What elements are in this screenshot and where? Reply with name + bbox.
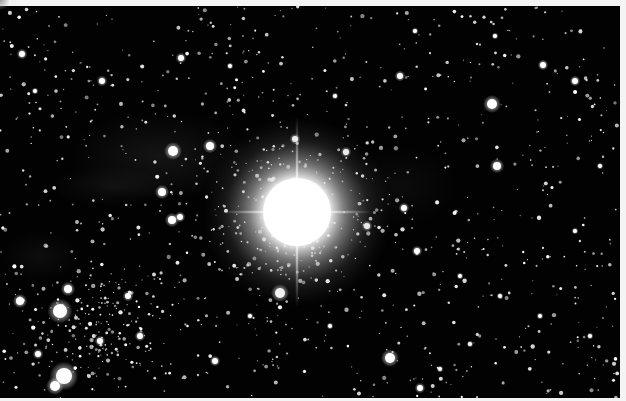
bright-star bbox=[538, 314, 542, 318]
bright-star bbox=[125, 293, 131, 299]
bright-star bbox=[487, 99, 497, 109]
bright-star bbox=[158, 188, 166, 196]
nebula-cloud bbox=[50, 166, 170, 206]
star-field-photo bbox=[0, 6, 620, 398]
bright-star bbox=[19, 51, 25, 57]
scan-corner-artifact bbox=[0, 0, 10, 10]
star-core bbox=[263, 178, 331, 246]
bright-star bbox=[64, 285, 72, 293]
bright-star bbox=[397, 73, 403, 79]
photo-border-top bbox=[0, 0, 626, 6]
bright-star bbox=[53, 304, 67, 318]
bright-star bbox=[97, 338, 103, 344]
bright-star bbox=[206, 142, 214, 150]
bright-star bbox=[168, 146, 178, 156]
bright-star bbox=[493, 162, 501, 170]
bright-star bbox=[417, 385, 423, 391]
central-bright-star bbox=[202, 117, 392, 307]
bright-star bbox=[498, 294, 502, 298]
bright-star bbox=[99, 78, 105, 84]
bright-star bbox=[178, 55, 184, 61]
nebula-cloud bbox=[0, 231, 80, 281]
bright-star bbox=[248, 314, 252, 318]
bright-star bbox=[468, 342, 472, 346]
bright-star bbox=[438, 367, 442, 371]
bright-star bbox=[572, 78, 578, 84]
bright-star bbox=[333, 94, 337, 98]
bright-star bbox=[212, 358, 218, 364]
bright-star bbox=[588, 334, 592, 338]
bright-star bbox=[540, 62, 546, 68]
bright-star bbox=[228, 64, 232, 68]
bright-star bbox=[573, 229, 577, 233]
bright-star bbox=[413, 29, 417, 33]
bright-star bbox=[33, 89, 37, 93]
bright-star bbox=[50, 381, 60, 391]
bright-star bbox=[598, 164, 602, 168]
bright-star bbox=[137, 333, 143, 339]
photo-border-right bbox=[620, 0, 626, 401]
bright-star bbox=[16, 297, 24, 305]
bright-star bbox=[401, 205, 407, 211]
bright-star bbox=[35, 351, 41, 357]
bright-star bbox=[177, 214, 183, 220]
star-field-canvas bbox=[0, 6, 620, 398]
bright-star bbox=[328, 324, 332, 328]
bright-star bbox=[414, 248, 420, 254]
bright-star bbox=[385, 353, 395, 363]
bright-star bbox=[493, 34, 497, 38]
bright-star bbox=[458, 274, 462, 278]
